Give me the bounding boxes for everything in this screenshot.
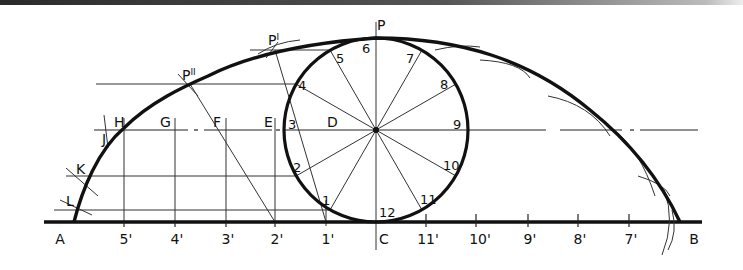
label-G: G — [160, 114, 171, 130]
label-F: F — [213, 114, 221, 130]
base-label-C: C — [379, 231, 389, 247]
base-label-7p: 7' — [625, 231, 638, 247]
label-P1: PI — [268, 32, 279, 48]
circle-label-8: 8 — [440, 77, 448, 92]
label-K: K — [76, 161, 86, 177]
base-label-10p: 10' — [469, 231, 491, 247]
base-label-8p: 8' — [574, 231, 587, 247]
circle-label-5: 5 — [336, 51, 344, 66]
circle-label-3: 3 — [288, 117, 296, 132]
baseline-labels: A 5' 4' 3' 2' 1' C 11' 10' 9' 8' 7' B — [55, 231, 699, 247]
label-H: H — [114, 114, 125, 130]
circle-label-7: 7 — [406, 51, 414, 66]
center-point — [373, 127, 379, 133]
label-E: E — [264, 114, 273, 130]
cycloid-diagram: 1 2 3 4 5 6 7 8 9 10 11 12 A 5' 4' 3' 2'… — [0, 0, 743, 270]
circle-label-2: 2 — [293, 160, 301, 175]
label-P: P — [377, 17, 385, 33]
circle-label-1: 1 — [322, 193, 330, 208]
base-label-1p: 1' — [322, 231, 335, 247]
base-label-5p: 5' — [120, 231, 133, 247]
circle-label-12: 12 — [379, 205, 396, 220]
base-label-2p: 2' — [271, 231, 284, 247]
base-label-11p: 11' — [417, 231, 439, 247]
base-label-9p: 9' — [524, 231, 537, 247]
diagram-canvas: 1 2 3 4 5 6 7 8 9 10 11 12 A 5' 4' 3' 2'… — [0, 0, 743, 270]
base-label-B: B — [689, 231, 699, 247]
base-label-4p: 4' — [171, 231, 184, 247]
circle-label-4: 4 — [298, 78, 306, 93]
top-border — [0, 0, 743, 5]
circle-label-11: 11 — [420, 192, 437, 207]
label-D: D — [327, 114, 338, 130]
label-L: L — [66, 193, 74, 209]
circle-label-10: 10 — [443, 158, 460, 173]
circle-label-9: 9 — [453, 117, 461, 132]
base-label-A: A — [55, 231, 65, 247]
circle-label-6: 6 — [362, 41, 370, 56]
label-J: J — [101, 131, 106, 147]
base-label-3p: 3' — [222, 231, 235, 247]
